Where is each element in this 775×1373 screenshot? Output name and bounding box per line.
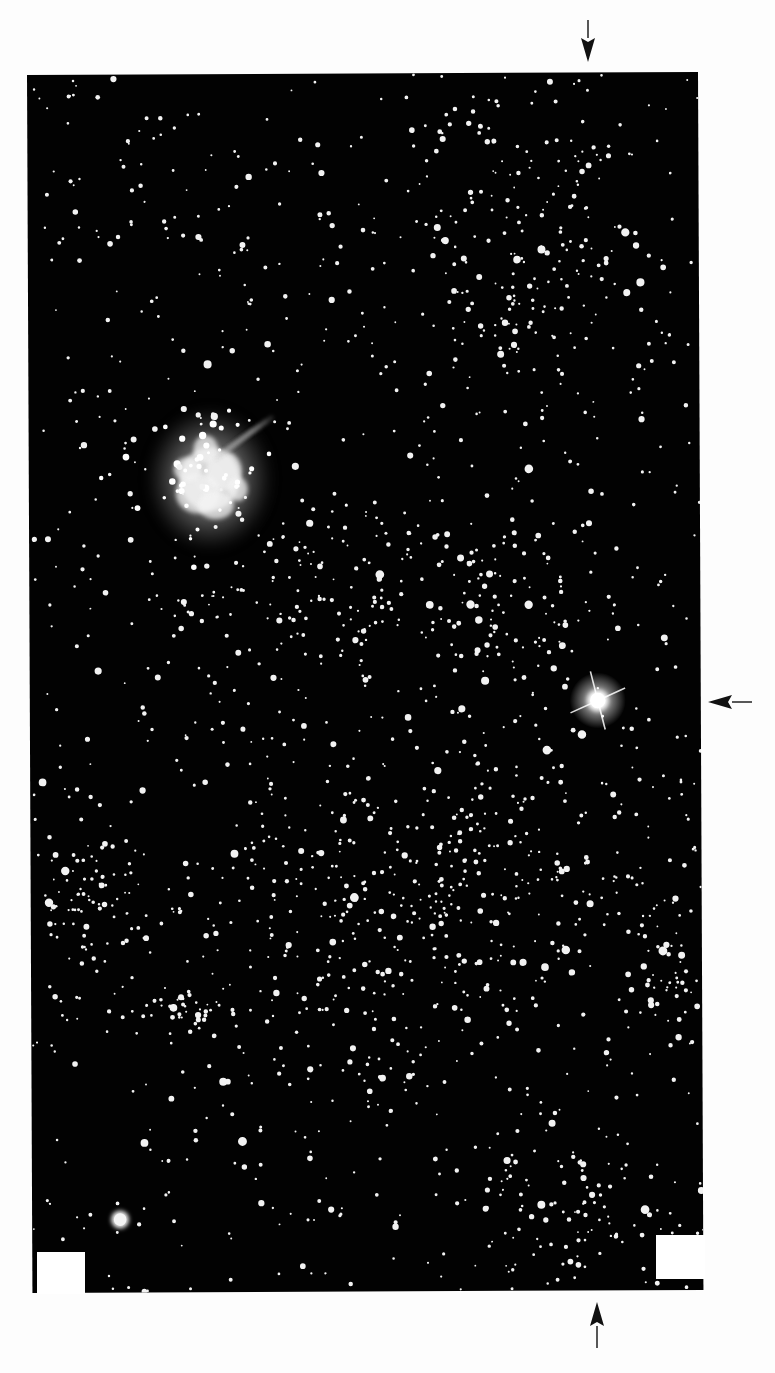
label-patch-bottom-left [37,1252,85,1294]
bright-star [570,671,626,729]
nebula [99,401,349,571]
label-patch-bottom-right [656,1235,705,1279]
star-field-image [27,72,703,1293]
lower-left-bright-knot [111,1211,129,1229]
page [0,0,775,1373]
star-field-plate [27,72,703,1293]
